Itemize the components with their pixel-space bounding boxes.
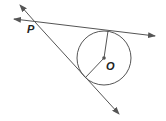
tangent-diagram: P O [0,0,166,121]
label-o: O [106,60,115,72]
radius-upper [104,31,108,58]
radius-lower [85,58,104,78]
label-p: P [27,23,35,35]
